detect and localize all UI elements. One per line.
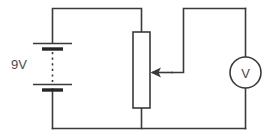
circuit-svg: 9V V <box>0 0 275 139</box>
wire-battery-to-potentiometer-top <box>53 9 142 44</box>
battery-symbol <box>33 44 72 91</box>
voltmeter-label: V <box>241 66 250 81</box>
voltmeter-symbol: V <box>230 57 261 88</box>
potentiometer-symbol <box>133 32 172 108</box>
battery-label: 9V <box>11 57 27 72</box>
circuit-diagram: 9V V <box>0 0 275 139</box>
potentiometer-body <box>133 32 150 108</box>
